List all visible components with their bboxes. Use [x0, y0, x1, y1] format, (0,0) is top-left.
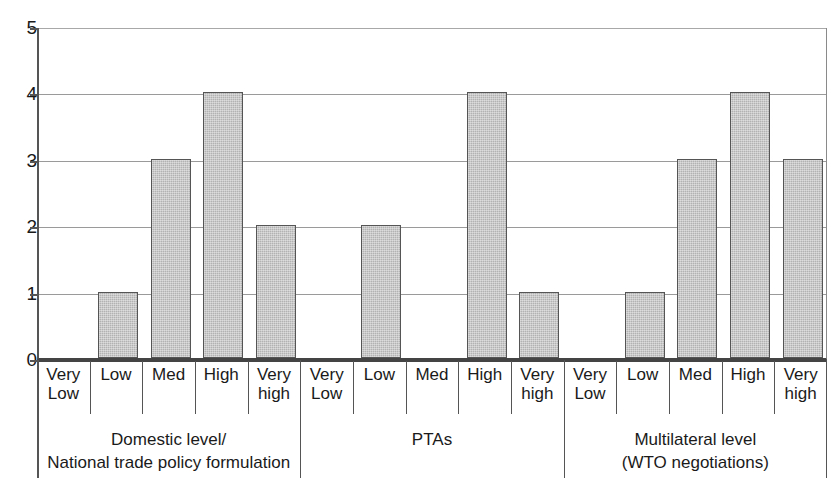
category-label-very-high: Veryhigh [248, 360, 301, 416]
group-label-line1: PTAs [300, 428, 563, 451]
category-separator [616, 361, 617, 414]
category-label-med: Med [142, 360, 195, 416]
bar-cell [250, 28, 303, 358]
plot-area-wrapper [37, 28, 827, 360]
category-label-high: High [458, 360, 511, 416]
bar [625, 292, 665, 358]
bar [519, 292, 559, 358]
category-label-high: High [722, 360, 775, 416]
category-label-very-high: Veryhigh [774, 360, 827, 416]
y-tick-mark-1 [30, 294, 37, 296]
y-tick-mark-0 [30, 360, 37, 362]
category-label-high: High [195, 360, 248, 416]
category-label-line1: High [195, 365, 248, 384]
bar [361, 225, 401, 358]
category-label-very-low: VeryLow [300, 360, 353, 416]
bar-cell [302, 28, 355, 358]
category-label-line1: Low [353, 365, 406, 384]
category-separator [195, 361, 196, 414]
category-label-line2: high [248, 384, 301, 403]
category-separator [669, 361, 670, 414]
category-label-line2: Low [300, 384, 353, 403]
category-separator [458, 361, 459, 414]
category-label-line1: Low [90, 365, 143, 384]
category-label-line1: Med [142, 365, 195, 384]
category-separator [722, 361, 723, 414]
bar-cell [566, 28, 619, 358]
group-separator [564, 360, 565, 478]
plot-area [37, 28, 827, 360]
group-label-line1: Domestic level/ [37, 428, 300, 451]
group-label: Domestic level/National trade policy for… [37, 418, 300, 478]
y-axis: 012345 [0, 0, 37, 360]
category-label-line1: Very [774, 365, 827, 384]
category-label-line1: High [458, 365, 511, 384]
category-label-row: VeryLowLowMedHighVeryhighVeryLowLowMedHi… [37, 360, 827, 416]
bar-cell [513, 28, 566, 358]
bar-cell [671, 28, 724, 358]
category-label-very-low: VeryLow [37, 360, 90, 416]
bar [203, 92, 243, 358]
category-label-med: Med [669, 360, 722, 416]
bar-cell [776, 28, 829, 358]
category-label-line1: Very [37, 365, 90, 384]
bar [730, 92, 770, 358]
bar [783, 159, 823, 358]
bar [256, 225, 296, 358]
category-label-line1: Med [669, 365, 722, 384]
category-label-line1: Very [511, 365, 564, 384]
bar-cell [408, 28, 461, 358]
bar-cell [197, 28, 250, 358]
bar-cell [355, 28, 408, 358]
bar-chart: 012345 VeryLowLowMedHighVeryhighVeryLowL… [0, 0, 838, 486]
category-label-med: Med [406, 360, 459, 416]
group-label-line1: Multilateral level [564, 428, 827, 451]
category-label-line1: Low [616, 365, 669, 384]
y-tick-mark-3 [30, 161, 37, 163]
bar-cell [724, 28, 777, 358]
bar-cell [39, 28, 92, 358]
category-label-low: Low [90, 360, 143, 416]
bar-cell [460, 28, 513, 358]
category-label-line2: high [774, 384, 827, 403]
y-tick-mark-4 [30, 94, 37, 96]
y-tick-mark-5 [30, 28, 37, 30]
category-label-very-high: Veryhigh [511, 360, 564, 416]
category-label-line1: High [722, 365, 775, 384]
category-separator [511, 361, 512, 414]
category-label-line2: high [511, 384, 564, 403]
category-label-line2: Low [37, 384, 90, 403]
bar [151, 159, 191, 358]
category-label-low: Low [616, 360, 669, 416]
bar-cell [92, 28, 145, 358]
category-separator [353, 361, 354, 414]
category-label-line1: Very [248, 365, 301, 384]
category-label-line1: Med [406, 365, 459, 384]
bar-cell [618, 28, 671, 358]
bar [677, 159, 717, 358]
category-label-line2: Low [564, 384, 617, 403]
category-label-low: Low [353, 360, 406, 416]
category-label-line1: Very [300, 365, 353, 384]
bars-layer [39, 28, 826, 358]
category-separator [142, 361, 143, 414]
group-label-row: Domestic level/National trade policy for… [37, 418, 827, 478]
category-separator [406, 361, 407, 414]
y-tick-mark-2 [30, 227, 37, 229]
group-label: Multilateral level(WTO negotiations) [564, 418, 827, 478]
category-separator [774, 361, 775, 414]
group-label-line2: (WTO negotiations) [564, 451, 827, 474]
group-separator [300, 360, 301, 478]
category-label-line1: Very [564, 365, 617, 384]
bar [467, 92, 507, 358]
bar [98, 292, 138, 358]
axis-label-table: VeryLowLowMedHighVeryhighVeryLowLowMedHi… [37, 360, 827, 480]
category-label-very-low: VeryLow [564, 360, 617, 416]
category-separator [90, 361, 91, 414]
category-separator [248, 361, 249, 414]
group-label: PTAs [300, 418, 563, 478]
group-label-line2: National trade policy formulation [37, 451, 300, 474]
bar-cell [144, 28, 197, 358]
